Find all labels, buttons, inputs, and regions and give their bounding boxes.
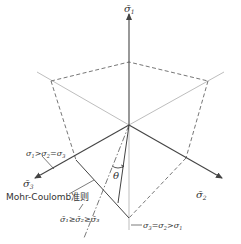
sigma2-axis	[129, 125, 222, 178]
sigma2-label: σ̄2	[196, 189, 207, 201]
ordering-label: σ̄₁≥σ̄₂≥σ̄₃	[60, 215, 99, 224]
mc-edge	[76, 160, 129, 218]
sigma1-label: σ̄1	[124, 3, 135, 15]
diagram-canvas: σ̄1 σ̄2 σ̄3 σ1>σ2=σ3 Mohr-Coulomb准则 σ̄₁≥…	[0, 0, 241, 244]
neg-sigma2-line	[37, 72, 129, 125]
sigma3-label: σ̄3	[23, 178, 34, 190]
leader-ordering	[79, 204, 83, 210]
mohr-coulomb-label: Mohr-Coulomb准则	[6, 191, 89, 202]
light-axis-lines	[37, 72, 224, 230]
compression-meridian-label: σ1>σ2=σ3	[26, 149, 65, 159]
dashed-right-edge	[186, 81, 208, 158]
theta-label: θ	[113, 170, 119, 181]
dashed-bottom-right-edge	[129, 158, 186, 218]
deviatoric-plane-diagram: σ̄1 σ̄2 σ̄3 σ1>σ2=σ3 Mohr-Coulomb准则 σ̄₁≥…	[0, 0, 241, 244]
mc-normal-line	[118, 125, 129, 203]
mohr-coulomb-segment	[76, 125, 129, 218]
neg-sigma3-line	[129, 72, 224, 125]
extension-meridian-label: σ3=σ2>σ1	[143, 221, 182, 231]
